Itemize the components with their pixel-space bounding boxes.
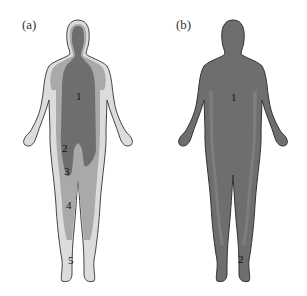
panel-label-b: (b) — [176, 17, 191, 33]
zone-label-1: 1 — [76, 91, 82, 102]
body-outer-zone — [179, 20, 288, 282]
zone-label-4: 4 — [66, 200, 72, 211]
panel-label-a: (a) — [22, 17, 36, 33]
zone-label-1: 1 — [231, 92, 237, 103]
zone-label-2: 2 — [238, 254, 244, 265]
body-silhouette-b — [153, 0, 307, 296]
zone-label-2: 2 — [62, 143, 68, 154]
panel-a: (a) 1 2 3 4 5 — [0, 0, 153, 296]
panel-b: (b) 1 2 — [153, 0, 306, 296]
zone-label-5: 5 — [68, 255, 74, 266]
body-silhouette-a — [0, 0, 153, 296]
zone-label-3: 3 — [64, 166, 70, 177]
